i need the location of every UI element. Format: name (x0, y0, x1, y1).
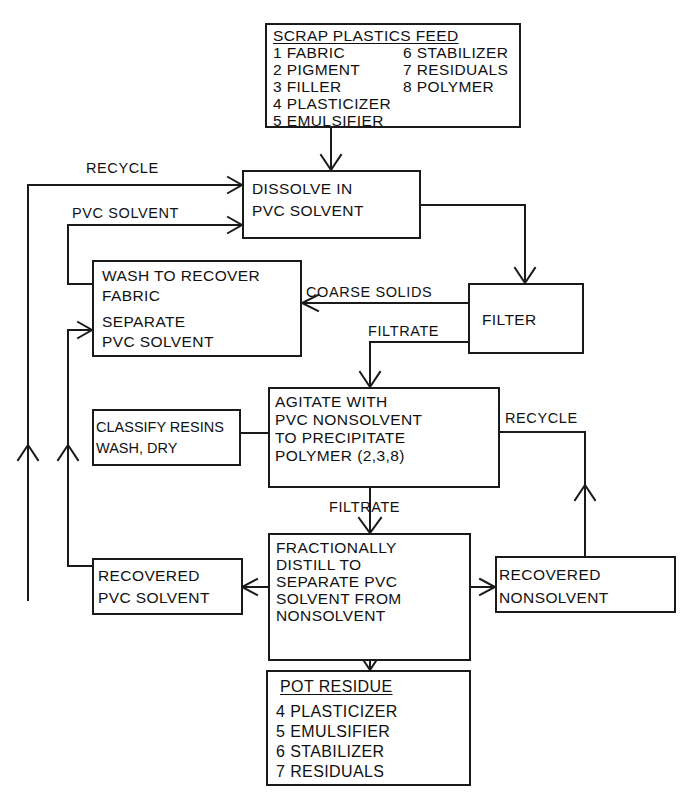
pot-residue-item: 7 RESIDUALS (276, 762, 398, 782)
feed-item: 6 STABILIZER (403, 44, 508, 61)
feed-item: 7 RESIDUALS (403, 61, 508, 78)
feed-items-left: 1 FABRIC 2 PIGMENT 3 FILLER 4 PLASTICIZE… (273, 44, 391, 129)
feed-item: 3 FILLER (273, 78, 391, 95)
classify-resins-box: CLASSIFY RESINS WASH, DRY (92, 409, 241, 466)
coarse-solids-label: COARSE SOLIDS (306, 284, 432, 300)
classify-line: CLASSIFY RESINS (96, 417, 224, 438)
dissolve-line: PVC SOLVENT (252, 200, 364, 222)
pot-residue-box: POT RESIDUE 4 PLASTICIZER 5 EMULSIFIER 6… (266, 670, 471, 786)
filter-box: FILTER (468, 283, 584, 354)
distill-line: DISTILL TO (276, 556, 402, 573)
agitate-line: POLYMER (2,3,8) (275, 447, 422, 465)
pot-residue-title: POT RESIDUE (280, 678, 393, 695)
recovered-nonsolvent-line: RECOVERED (499, 563, 609, 586)
distill-line: SEPARATE PVC (276, 573, 402, 590)
fractional-distill-box: FRACTIONALLY DISTILL TO SEPARATE PVC SOL… (268, 533, 471, 661)
pot-residue-item: 5 EMULSIFIER (276, 722, 398, 742)
feed-title: SCRAP PLASTICS FEED (273, 27, 459, 44)
recycle-top-label: RECYCLE (86, 160, 159, 176)
distill-line: FRACTIONALLY (276, 539, 402, 556)
wash-line: FABRIC (102, 286, 260, 306)
wash-recover-fabric-box: WASH TO RECOVER FABRIC SEPARATE PVC SOLV… (92, 260, 302, 357)
distill-line: NONSOLVENT (276, 607, 402, 624)
feed-items-right: 6 STABILIZER 7 RESIDUALS 8 POLYMER (403, 44, 508, 95)
pvc-solvent-label: PVC SOLVENT (72, 205, 179, 221)
feed-item: 5 EMULSIFIER (273, 112, 391, 129)
recycle-right-label: RECYCLE (505, 410, 578, 426)
feed-item: 2 PIGMENT (273, 61, 391, 78)
scrap-plastics-feed-box: SCRAP PLASTICS FEED 1 FABRIC 2 PIGMENT 3… (265, 23, 521, 128)
pot-residue-item: 4 PLASTICIZER (276, 702, 398, 722)
feed-item: 8 POLYMER (403, 78, 508, 95)
pot-residue-item: 6 STABILIZER (276, 742, 398, 762)
agitate-line: TO PRECIPITATE (275, 429, 422, 447)
filter-label: FILTER (482, 311, 537, 328)
recovered-pvc-solvent-box: RECOVERED PVC SOLVENT (92, 558, 243, 615)
dissolve-box: DISSOLVE IN PVC SOLVENT (242, 170, 421, 239)
feed-item: 1 FABRIC (273, 44, 391, 61)
feed-item: 4 PLASTICIZER (273, 95, 391, 112)
agitate-precipitate-box: AGITATE WITH PVC NONSOLVENT TO PRECIPITA… (268, 387, 500, 488)
wash-line: PVC SOLVENT (102, 332, 260, 352)
recovered-nonsolvent-box: RECOVERED NONSOLVENT (495, 556, 676, 613)
dissolve-line: DISSOLVE IN (252, 178, 364, 200)
agitate-line: AGITATE WITH (275, 393, 422, 411)
recovered-nonsolvent-line: NONSOLVENT (499, 586, 609, 609)
agitate-line: PVC NONSOLVENT (275, 411, 422, 429)
wash-line: SEPARATE (102, 312, 260, 332)
recovered-solvent-line: PVC SOLVENT (98, 587, 210, 609)
filtrate-label-1: FILTRATE (368, 323, 439, 339)
classify-line: WASH, DRY (96, 438, 224, 459)
distill-line: SOLVENT FROM (276, 590, 402, 607)
recovered-solvent-line: RECOVERED (98, 565, 210, 587)
filtrate-label-2: FILTRATE (329, 499, 400, 515)
wash-line: WASH TO RECOVER (102, 266, 260, 286)
